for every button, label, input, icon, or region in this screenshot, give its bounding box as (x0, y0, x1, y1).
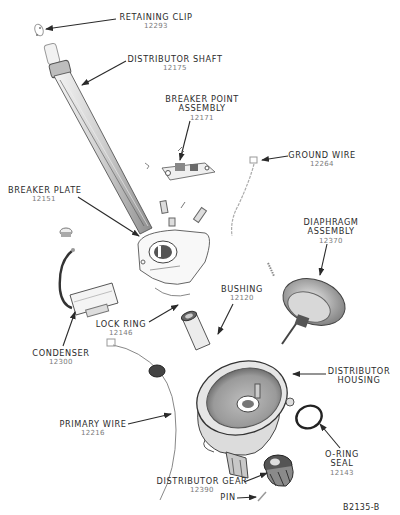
label-name: GROUND WIRE (286, 151, 358, 160)
label-name: DISTRIBUTOR SHAFT (126, 55, 224, 64)
part-number: 12146 (94, 329, 148, 337)
breaker-plate-part (138, 230, 210, 284)
o-ring-seal-part (293, 402, 326, 433)
plate-screws-part (160, 201, 206, 226)
figure-id: B2135-B (343, 503, 380, 512)
label-name: BREAKER PLATE (8, 186, 80, 195)
ground-wire-part (232, 157, 257, 236)
part-number: 12120 (218, 294, 266, 302)
part-number: 12151 (8, 195, 80, 203)
part-number: 12264 (286, 160, 358, 168)
part-number: 12216 (58, 429, 128, 437)
diagram-artwork (0, 0, 400, 515)
distributor-gear-part (264, 455, 293, 486)
label-name-line2: ASSEMBLY (162, 104, 242, 113)
breaker-point-assembly-part (145, 147, 215, 180)
label-lock-ring: LOCK RING 12146 (94, 320, 148, 337)
label-name: DISTRIBUTOR GEAR (156, 477, 248, 486)
diaphragm-assembly-part (268, 263, 352, 344)
exploded-diagram: RETAINING CLIP 12293 DISTRIBUTOR SHAFT 1… (0, 0, 400, 515)
label-retaining-clip: RETAINING CLIP 12293 (118, 13, 194, 30)
part-number: 12143 (320, 469, 364, 477)
label-o-ring-seal: O-RING SEAL 12143 (320, 450, 364, 477)
part-number: 12171 (162, 114, 242, 122)
label-diaphragm-assembly: DIAPHRAGM ASSEMBLY 12370 (300, 218, 362, 245)
part-number: 12175 (126, 64, 224, 72)
label-distributor-housing: DISTRIBUTOR HOUSING (326, 367, 392, 386)
label-name: PIN (218, 493, 238, 502)
label-name-line2: HOUSING (326, 376, 392, 385)
bushing-part (180, 310, 210, 350)
label-pin: PIN (218, 493, 238, 502)
label-distributor-shaft: DISTRIBUTOR SHAFT 12175 (126, 55, 224, 72)
label-name: LOCK RING (94, 320, 148, 329)
part-number: 12300 (32, 358, 90, 366)
label-primary-wire: PRIMARY WIRE 12216 (58, 420, 128, 437)
part-number: 12370 (300, 237, 362, 245)
retaining-clip-part (33, 23, 45, 37)
lock-ring-part (155, 288, 190, 296)
label-breaker-plate: BREAKER PLATE 12151 (8, 186, 80, 203)
label-name: PRIMARY WIRE (58, 420, 128, 429)
condenser-part (60, 248, 118, 317)
label-name: CONDENSER (32, 349, 90, 358)
label-name: BUSHING (218, 285, 266, 294)
label-ground-wire: GROUND WIRE 12264 (286, 151, 358, 168)
label-name: RETAINING CLIP (118, 13, 194, 22)
label-bushing: BUSHING 12120 (218, 285, 266, 302)
part-number: 12293 (118, 22, 194, 30)
nut-part (60, 228, 72, 237)
label-name-line2: SEAL (320, 459, 364, 468)
label-name-line2: ASSEMBLY (300, 227, 362, 236)
pin-part (258, 492, 266, 501)
label-breaker-point-assembly: BREAKER POINT ASSEMBLY 12171 (162, 95, 242, 122)
label-condenser: CONDENSER 12300 (32, 349, 90, 366)
